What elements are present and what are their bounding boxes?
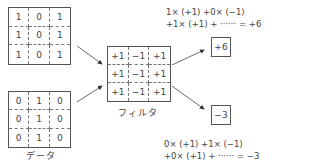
arrow-data-top-to-filter	[77, 46, 102, 64]
formula-bottom: 0× (+1) +1× (−1) +0× (+1) + ······ = −3	[164, 138, 259, 162]
result-box-bottom: −3	[211, 105, 231, 125]
arrow-filter-to-result-bottom	[172, 86, 204, 109]
formula-top: 1× (+1) +0× (−1) +1× (+1) + ······ = +6	[166, 6, 261, 30]
arrow-filter-to-result-top	[172, 50, 204, 65]
arrow-data-bottom-to-filter	[77, 86, 102, 102]
formula-top-line1: 1× (+1) +0× (−1)	[166, 6, 261, 18]
formula-top-line2: +1× (+1) + ······ = +6	[166, 18, 261, 30]
formula-bottom-line2: +0× (+1) + ······ = −3	[164, 150, 259, 162]
result-box-top: +6	[211, 37, 231, 57]
formula-bottom-line1: 0× (+1) +1× (−1)	[164, 138, 259, 150]
